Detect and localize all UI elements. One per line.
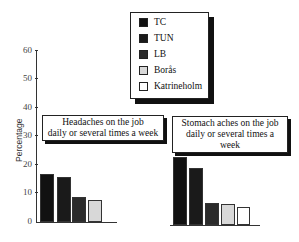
y-tick xyxy=(35,50,38,51)
y-tick-label: 10 xyxy=(18,187,32,197)
y-tick xyxy=(35,135,38,136)
y-tick-label: 50 xyxy=(18,73,32,83)
swatch-katrineholm xyxy=(139,82,148,91)
bar-stomach-lb xyxy=(205,203,219,225)
legend-label: TUN xyxy=(154,33,174,43)
y-tick-label: 60 xyxy=(18,45,32,55)
panel-title-line2: daily or several times a week xyxy=(45,128,161,139)
legend: TC TUN LB Borås Katrineholm xyxy=(130,12,209,99)
bar-stomach-boras xyxy=(221,204,235,225)
panel-title-line1: Headaches on the job xyxy=(45,117,161,128)
legend-item-boras: Borås xyxy=(139,64,176,76)
y-tick xyxy=(35,78,38,79)
y-axis-label: Percentage xyxy=(14,119,24,162)
legend-item-katrineholm: Katrineholm xyxy=(139,80,202,92)
swatch-tun xyxy=(139,34,148,43)
y-tick xyxy=(35,192,38,193)
panel-title-stomach: Stomach aches on the job daily or severa… xyxy=(172,116,288,153)
bar-headaches-boras xyxy=(88,200,102,222)
bar-stomach-tc xyxy=(173,157,187,225)
panel-title-line2: daily or several times a week xyxy=(175,129,285,151)
bar-headaches-tc xyxy=(40,174,54,222)
baseline-headaches xyxy=(36,222,117,223)
legend-label: Borås xyxy=(154,65,176,75)
legend-label: LB xyxy=(154,49,166,59)
legend-item-lb: LB xyxy=(139,48,166,60)
legend-label: TC xyxy=(154,17,166,27)
bar-stomach-katrineholm xyxy=(237,207,250,225)
legend-label: Katrineholm xyxy=(154,81,202,91)
y-axis-line xyxy=(36,50,37,222)
legend-item-tun: TUN xyxy=(139,32,174,44)
bar-stomach-tun xyxy=(189,168,203,225)
legend-item-tc: TC xyxy=(139,16,166,28)
y-tick xyxy=(35,164,38,165)
bar-headaches-lb xyxy=(72,197,86,222)
y-tick-label: 0 xyxy=(18,216,32,226)
y-tick xyxy=(35,107,38,108)
swatch-lb xyxy=(139,50,148,59)
swatch-tc xyxy=(139,18,148,27)
baseline-stomach xyxy=(170,225,260,226)
swatch-boras xyxy=(139,66,148,75)
panel-title-line1: Stomach aches on the job xyxy=(175,118,285,129)
bar-headaches-tun xyxy=(57,177,71,222)
y-tick-label: 40 xyxy=(18,102,32,112)
panel-title-headaches: Headaches on the job daily or several ti… xyxy=(42,115,164,141)
